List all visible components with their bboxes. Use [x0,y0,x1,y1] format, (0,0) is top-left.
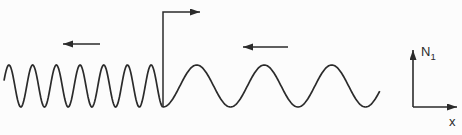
diagram-canvas: N1 x [0,0,462,135]
vertical-axis-label-subscript: 1 [430,51,435,62]
wave-diagram: N1 x [0,0,462,135]
vertical-axis-label: N1 [421,44,436,62]
short-wavelength-wave [4,65,163,107]
horizontal-axis-label: x [449,114,456,129]
interface-right-arrow-marker [163,12,200,107]
vertical-axis-label-letter: N [421,44,430,59]
long-wavelength-wave [163,65,380,107]
